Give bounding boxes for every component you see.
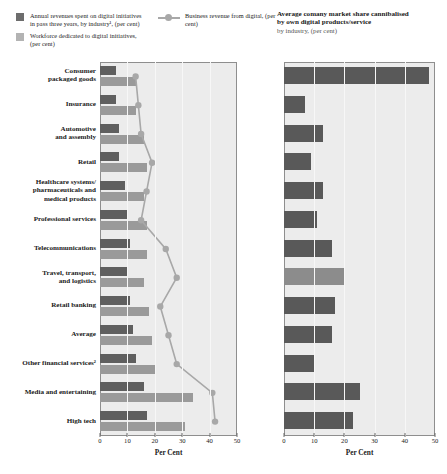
gridline <box>375 62 376 436</box>
bar-market-share-cannibalised <box>284 125 323 142</box>
category-label-line: Travel, transport, <box>0 269 96 277</box>
legend-item-business-revenue: Business revenue from digital, (per cent… <box>158 12 278 27</box>
category-label-line: pharmaceuticals and <box>0 186 96 194</box>
category-axis-labels: Consumerpackaged goodsInsuranceAutomotiv… <box>0 62 96 436</box>
gridline <box>344 62 345 436</box>
chart-row <box>284 263 435 292</box>
bar-market-share-cannibalised <box>284 355 314 372</box>
legend-line-marker-icon <box>158 13 180 22</box>
bar-market-share-cannibalised <box>284 67 429 84</box>
line-marker-6 <box>163 246 169 252</box>
right-chart-x-axis: 01020304050Per Cent <box>284 437 435 463</box>
legend-item-workforce: Workforce dedicated to digital initiativ… <box>16 32 146 47</box>
axis-tick-label: 40 <box>206 437 213 444</box>
category-label-line: Automotive <box>0 125 96 133</box>
bar-market-share-cannibalised <box>284 297 335 314</box>
category-label-3: Retail <box>0 158 96 166</box>
line-path <box>136 76 215 421</box>
line-marker-1 <box>135 102 141 108</box>
bar-market-share-cannibalised <box>284 412 353 429</box>
chart-row <box>284 148 435 177</box>
axis-tick-label: 0 <box>282 437 285 444</box>
category-label-line: Consumer <box>0 67 96 75</box>
chart-row <box>284 91 435 120</box>
legend-label-workforce: Workforce dedicated to digital initiativ… <box>30 32 146 47</box>
chart-figure: Annual revenues spent on digital initiat… <box>0 0 447 474</box>
category-label-9: Average <box>0 330 96 338</box>
axis-tick-label: 10 <box>311 437 318 444</box>
legend-swatch-light-icon <box>16 33 24 41</box>
gridline <box>182 62 183 436</box>
line-marker-8 <box>157 303 163 309</box>
gridline <box>210 62 211 436</box>
bar-market-share-cannibalised <box>284 96 305 113</box>
axis-tick-label: 10 <box>124 437 131 444</box>
right-chart-plot-area <box>284 62 435 436</box>
category-label-line: Insurance <box>0 100 96 108</box>
category-label-line: Other financial services² <box>0 359 96 367</box>
bar-market-share-cannibalised <box>284 153 311 170</box>
right-chart-subtitle: by industry, (per cent) <box>277 27 445 35</box>
bar-market-share-cannibalised <box>284 211 317 228</box>
category-label-12: High tech <box>0 417 96 425</box>
category-label-line: Retail banking <box>0 301 96 309</box>
axis-tick-label: 20 <box>152 437 159 444</box>
axis-title: Per Cent <box>346 448 374 457</box>
axis-tick-label: 40 <box>402 437 409 444</box>
category-label-2: Automotiveand assembly <box>0 125 96 141</box>
legend: Annual revenues spent on digital initiat… <box>16 12 266 58</box>
chart-row <box>284 407 435 436</box>
line-marker-4 <box>143 188 149 194</box>
chart-row <box>284 62 435 91</box>
category-label-line: and logistics <box>0 277 96 285</box>
line-marker-9 <box>165 332 171 338</box>
chart-row <box>284 177 435 206</box>
chart-row <box>284 321 435 350</box>
legend-swatch-dark-icon <box>16 13 24 21</box>
chart-row <box>284 120 435 149</box>
category-label-7: Travel, transport,and logistics <box>0 269 96 285</box>
left-chart-plot-area <box>100 62 237 436</box>
axis-tick-label: 0 <box>98 437 101 444</box>
axis-tick-label: 30 <box>371 437 378 444</box>
line-marker-7 <box>174 275 180 281</box>
axis-title: Per Cent <box>155 448 183 457</box>
bar-market-share-cannibalised <box>284 383 360 400</box>
gridline <box>314 62 315 436</box>
right-chart-title-block: Average comany market share cannibalised… <box>277 10 445 35</box>
category-label-line: Retail <box>0 158 96 166</box>
legend-label-annual-revenues: Annual revenues spent on digital initiat… <box>30 12 146 27</box>
legend-item-annual-revenues: Annual revenues spent on digital initiat… <box>16 12 146 27</box>
bar-market-share-cannibalised <box>284 182 323 199</box>
line-marker-0 <box>132 73 138 79</box>
category-label-1: Insurance <box>0 100 96 108</box>
category-label-line: High tech <box>0 417 96 425</box>
business-revenue-line-series <box>100 62 237 436</box>
chart-row <box>284 235 435 264</box>
category-label-5: Professional services <box>0 215 96 223</box>
category-label-line: and assembly <box>0 133 96 141</box>
left-chart-x-axis: 01020304050Per Cent <box>100 437 237 463</box>
line-marker-12 <box>212 418 218 424</box>
right-chart-title-line1: Average comany market share cannibalised <box>277 10 445 18</box>
gridline <box>155 62 156 436</box>
category-label-8: Retail banking <box>0 301 96 309</box>
category-label-6: Telecommunications <box>0 244 96 252</box>
axis-tick-label: 50 <box>234 437 241 444</box>
axis-tick-label: 50 <box>432 437 439 444</box>
category-label-0: Consumerpackaged goods <box>0 67 96 83</box>
legend-column-bars: Annual revenues spent on digital initiat… <box>16 12 146 52</box>
category-label-line: packaged goods <box>0 75 96 83</box>
legend-column-line: Business revenue from digital, (per cent… <box>158 12 278 32</box>
bar-market-share-cannibalised <box>284 326 332 343</box>
chart-row <box>284 206 435 235</box>
chart-row <box>284 378 435 407</box>
category-label-4: Healthcare systems/pharmaceuticals andme… <box>0 178 96 203</box>
line-marker-10 <box>174 361 180 367</box>
gridline <box>127 62 128 436</box>
category-label-10: Other financial services² <box>0 359 96 367</box>
right-chart-title-line2: by own digital products/service <box>277 18 445 26</box>
axis-tick-label: 20 <box>341 437 348 444</box>
category-label-line: Healthcare systems/ <box>0 178 96 186</box>
chart-row <box>284 350 435 379</box>
